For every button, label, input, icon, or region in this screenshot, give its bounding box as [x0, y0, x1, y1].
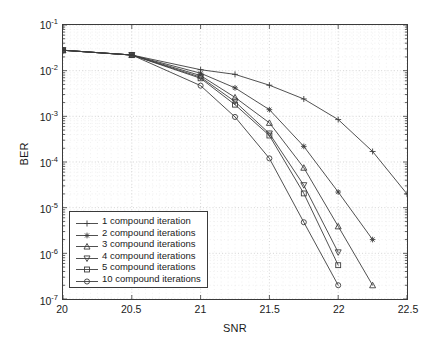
- legend-marker-circle-icon: [74, 273, 100, 284]
- legend-marker-triangle-up-icon: [74, 238, 100, 249]
- legend-item-label: 1 compound iteration: [100, 215, 191, 226]
- legend-item: 3 compound iterations: [74, 238, 201, 250]
- legend-item-label: 2 compound iterations: [100, 227, 195, 238]
- x-tick-label: 22.5: [388, 303, 428, 315]
- legend-item: 5 compound iterations: [74, 261, 201, 273]
- x-tick-label: 21: [180, 303, 220, 315]
- legend-item-label: 5 compound iterations: [100, 261, 195, 272]
- x-axis-title: SNR: [62, 322, 408, 334]
- legend-marker-triangle-down-icon: [74, 250, 100, 261]
- legend-marker-plus-icon: [74, 215, 100, 226]
- legend-item: 4 compound iterations: [74, 250, 201, 262]
- legend: 1 compound iteration2 compound iteration…: [69, 211, 208, 288]
- legend-item-label: 10 compound iterations: [100, 273, 201, 284]
- y-tick-label: 10-5: [40, 201, 58, 215]
- legend-marker-star-icon: [74, 227, 100, 238]
- y-tick-label: 10-4: [40, 155, 58, 169]
- legend-item-label: 3 compound iterations: [100, 238, 195, 249]
- legend-item: 1 compound iteration: [74, 215, 201, 227]
- legend-marker-square-icon: [74, 261, 100, 272]
- x-tick-label: 20.5: [111, 303, 151, 315]
- y-tick-label: 10-6: [40, 247, 58, 261]
- x-tick-label: 20: [42, 303, 82, 315]
- legend-item: 2 compound iterations: [74, 227, 201, 239]
- y-tick-label: 10-2: [40, 63, 58, 77]
- legend-item-label: 4 compound iterations: [100, 250, 195, 261]
- ber-vs-snr-figure: 10-110-210-310-410-510-610-7 BER SNR 1 c…: [0, 0, 434, 346]
- y-tick-label: 10-1: [40, 17, 58, 31]
- y-tick-label: 10-3: [40, 109, 58, 123]
- y-axis-title: BER: [18, 124, 30, 184]
- x-tick-label: 21.5: [250, 303, 290, 315]
- x-tick-label: 22: [319, 303, 359, 315]
- legend-item: 10 compound iterations: [74, 273, 201, 285]
